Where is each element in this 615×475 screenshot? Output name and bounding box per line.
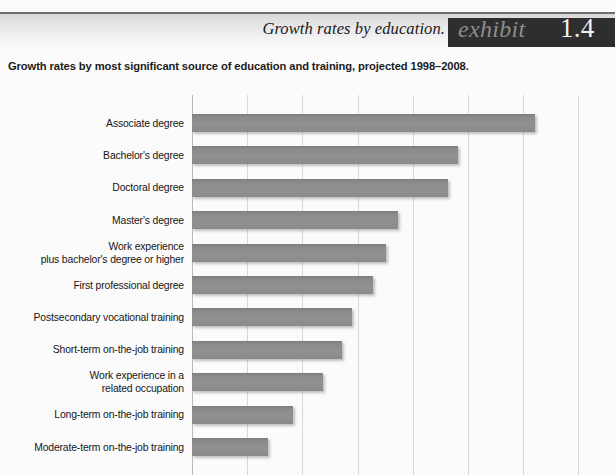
bar-row — [192, 202, 615, 234]
bar-row — [192, 137, 615, 169]
chart-subtitle: Growth rates by most significant source … — [8, 60, 469, 72]
category-label-line: Associate degree — [0, 117, 184, 130]
bar-row — [192, 332, 615, 364]
category-label: Doctoral degree — [0, 181, 184, 194]
bar-row — [192, 170, 615, 202]
category-label-line: Moderate-term on-the-job training — [0, 441, 184, 454]
bar-chart: Associate degreeBachelor's degreeDoctora… — [0, 95, 615, 475]
category-label-line: Long-term on-the-job training — [0, 408, 184, 421]
bar — [192, 373, 323, 391]
exhibit-header: Growth rates by education. exhibit 1.4 — [0, 12, 615, 48]
category-label: Work experienceplus bachelor's degree or… — [0, 240, 184, 266]
category-label: Postsecondary vocational training — [0, 311, 184, 324]
bar — [192, 114, 535, 132]
bar-row — [192, 235, 615, 267]
category-label: Long-term on-the-job training — [0, 408, 184, 421]
exhibit-badge: exhibit 1.4 — [448, 18, 615, 47]
bar — [192, 244, 386, 262]
category-label-line: Doctoral degree — [0, 181, 184, 194]
category-label: Work experience in arelated occupation — [0, 369, 184, 395]
category-label: Short-term on-the-job training — [0, 343, 184, 356]
category-label: Master's degree — [0, 214, 184, 227]
bar — [192, 179, 448, 197]
category-label-line: Master's degree — [0, 214, 184, 227]
bar-row — [192, 299, 615, 331]
category-label: Associate degree — [0, 117, 184, 130]
category-label-line: plus bachelor's degree or higher — [0, 253, 184, 266]
bar — [192, 406, 293, 424]
category-label-line: Postsecondary vocational training — [0, 311, 184, 324]
category-label: Moderate-term on-the-job training — [0, 441, 184, 454]
exhibit-badge-number: 1.4 — [560, 18, 595, 44]
category-label-line: Bachelor's degree — [0, 149, 184, 162]
category-label-line: Work experience in a — [0, 369, 184, 382]
bar — [192, 146, 458, 164]
exhibit-badge-word: exhibit — [458, 18, 525, 43]
bar — [192, 276, 373, 294]
category-label-line: related occupation — [0, 382, 184, 395]
bar — [192, 341, 342, 359]
category-label-line: Work experience — [0, 240, 184, 253]
bar — [192, 211, 398, 229]
bar-row — [192, 429, 615, 461]
page-title: Growth rates by education. — [262, 19, 445, 39]
category-label-line: First professional degree — [0, 279, 184, 292]
bar-row — [192, 267, 615, 299]
category-label: Bachelor's degree — [0, 149, 184, 162]
plot-area — [192, 95, 615, 475]
bar-row — [192, 364, 615, 396]
category-label-line: Short-term on-the-job training — [0, 343, 184, 356]
bar — [192, 438, 268, 456]
bar-row — [192, 397, 615, 429]
bar-row — [192, 105, 615, 137]
bar — [192, 308, 352, 326]
category-label: First professional degree — [0, 279, 184, 292]
